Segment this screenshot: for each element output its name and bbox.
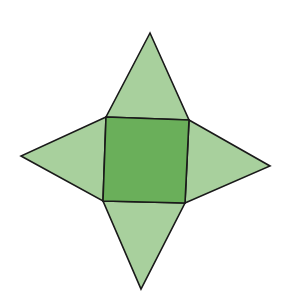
lateral-face-bottom: [103, 201, 185, 289]
lateral-face-left: [21, 117, 106, 201]
square-pyramid-net: [0, 0, 286, 301]
lateral-face-right: [185, 120, 270, 203]
lateral-face-top: [106, 33, 189, 120]
square-base-face: [103, 117, 189, 203]
